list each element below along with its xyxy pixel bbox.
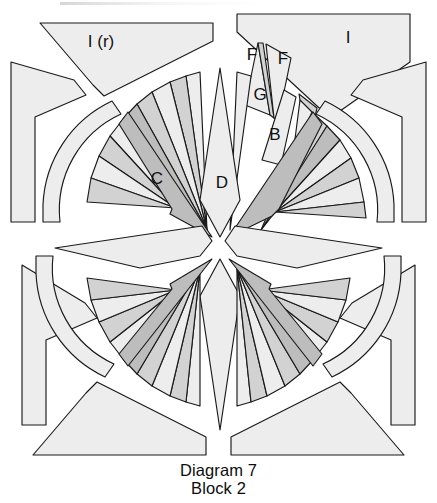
- main-point-right: [225, 226, 382, 268]
- label-f-1: F: [247, 45, 257, 64]
- label-b: B: [269, 125, 280, 144]
- quadrant-top-left: [11, 23, 213, 237]
- figure-caption-subtitle: Block 2: [0, 479, 437, 497]
- label-d: D: [216, 173, 228, 192]
- main-point-bottom: [200, 259, 240, 430]
- quadrant-bottom-left: [22, 256, 212, 455]
- figure-caption-title: Diagram 7: [0, 461, 437, 479]
- main-point-left: [55, 226, 212, 268]
- quadrant-bottom-right: [229, 256, 415, 455]
- scan-artifact: [60, 2, 260, 5]
- label-c: C: [151, 169, 163, 188]
- quilt-block-diagram: I (r) I F F G B C D: [0, 0, 437, 503]
- diagram-figure: I (r) I F F G B C D Diagram 7 Block 2: [0, 0, 437, 503]
- label-f-2: F: [278, 49, 288, 68]
- label-i: I: [346, 28, 351, 47]
- label-g: G: [253, 85, 266, 104]
- quadrant-top-right: [229, 14, 426, 237]
- label-i-r: I (r): [88, 32, 114, 51]
